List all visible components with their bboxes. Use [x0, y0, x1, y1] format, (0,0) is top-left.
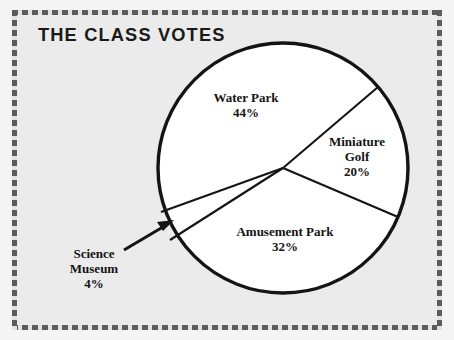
slice-label-science-museum: Science Museum 4%: [46, 246, 142, 291]
slice-label-science-museum-text-line1: Science: [73, 246, 114, 261]
slice-label-science-museum-percent: 4%: [46, 276, 142, 291]
slice-label-miniature-golf-text-line2: Golf: [316, 149, 398, 164]
slice-label-miniature-golf: Miniature Golf 20%: [316, 134, 398, 179]
slice-label-science-museum-text-line2: Museum: [46, 261, 142, 276]
slice-label-miniature-golf-percent: 20%: [316, 164, 398, 179]
slice-label-amusement-park: Amusement Park 32%: [214, 224, 356, 254]
slice-label-miniature-golf-text-line1: Miniature: [329, 134, 385, 149]
pie-chart-poster: THE CLASS VOTES Water Park 44% Miniature…: [0, 0, 454, 340]
slice-label-amusement-park-percent: 32%: [214, 239, 356, 254]
slice-label-water-park-percent: 44%: [186, 105, 306, 120]
slice-label-water-park-text: Water Park: [213, 90, 278, 105]
slice-label-water-park: Water Park 44%: [186, 90, 306, 120]
slice-label-amusement-park-text: Amusement Park: [236, 224, 333, 239]
